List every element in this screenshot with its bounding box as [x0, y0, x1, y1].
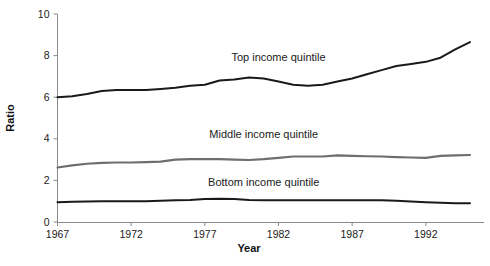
x-tick-label: 1977	[193, 228, 217, 240]
series-annotation-labels: Top income quintileMiddle income quintil…	[208, 51, 325, 188]
y-tick-label: 8	[44, 49, 50, 61]
y-tick-label: 6	[44, 91, 50, 103]
series-label: Top income quintile	[231, 51, 325, 63]
x-tick-label: 1992	[414, 228, 438, 240]
y-axis-ticks	[54, 14, 58, 222]
series-line	[58, 155, 471, 167]
x-tick-label: 1967	[46, 228, 70, 240]
y-tick-label: 0	[44, 216, 50, 228]
y-axis-tick-labels: 0246810	[38, 8, 50, 228]
y-tick-label: 10	[38, 8, 50, 20]
y-tick-label: 4	[44, 132, 50, 144]
x-tick-label: 1982	[267, 228, 291, 240]
y-tick-label: 2	[44, 174, 50, 186]
series-label: Bottom income quintile	[208, 176, 319, 188]
chart-canvas: 0246810 196719721977198219871992 Top inc…	[0, 0, 490, 266]
series-label: Middle income quintile	[209, 128, 318, 140]
x-axis-tick-labels: 196719721977198219871992	[46, 228, 438, 240]
series-line	[58, 199, 471, 204]
x-tick-label: 1972	[119, 228, 143, 240]
x-tick-label: 1987	[340, 228, 364, 240]
income-ratio-line-chart: 0246810 196719721977198219871992 Top inc…	[0, 0, 490, 266]
x-axis-title: Year	[237, 242, 261, 254]
y-axis-title: Ratio	[4, 104, 16, 132]
axes	[54, 14, 485, 226]
